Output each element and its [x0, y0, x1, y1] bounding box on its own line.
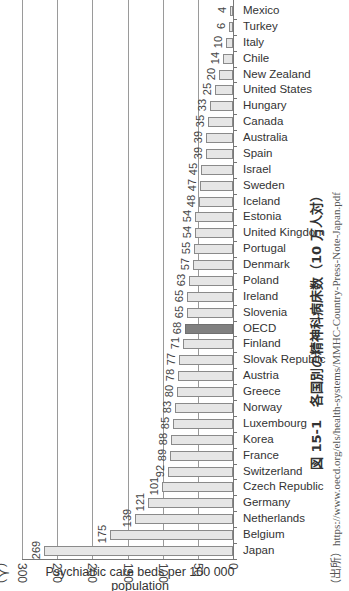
y-tick — [233, 336, 237, 337]
bar-slovenia — [187, 308, 233, 318]
y-tick — [233, 479, 237, 480]
y-tick — [233, 114, 237, 115]
y-tick — [233, 82, 237, 83]
y-tick — [233, 162, 237, 163]
bar-hungary — [210, 101, 233, 111]
bar-denmark — [193, 260, 233, 270]
bar-chile — [223, 54, 233, 64]
y-tick — [233, 98, 237, 99]
category-label: Slovenia — [243, 306, 287, 318]
category-label: Italy — [243, 36, 264, 48]
y-tick — [233, 19, 237, 20]
bar-netherlands — [135, 514, 233, 524]
bar-japan — [44, 546, 233, 556]
category-label: Canada — [243, 115, 283, 127]
x-axis-title-line2: population — [20, 579, 260, 591]
bar-mexico — [230, 6, 233, 16]
category-label: Portugal — [243, 242, 286, 254]
category-label: Greece — [243, 385, 281, 397]
value-label: 139 — [121, 506, 133, 530]
bar-israel — [201, 165, 233, 175]
category-label: Turkey — [243, 20, 278, 32]
category-label: Denmark — [243, 258, 290, 270]
category-label: Ireland — [243, 290, 278, 302]
bar-new-zealand — [219, 70, 233, 80]
category-label: Austria — [243, 369, 279, 381]
y-tick — [233, 209, 237, 210]
bar-austria — [178, 371, 233, 381]
y-tick — [233, 559, 237, 560]
y-tick — [233, 289, 237, 290]
value-label: 121 — [134, 490, 146, 514]
bar-poland — [189, 276, 233, 286]
y-tick — [233, 448, 237, 449]
y-tick — [233, 51, 237, 52]
y-tick — [233, 321, 237, 322]
category-label: Czech Republic — [243, 480, 324, 492]
gridline — [22, 0, 23, 559]
y-tick — [233, 225, 237, 226]
y-tick — [233, 464, 237, 465]
category-label: Luxembourg — [243, 417, 307, 429]
y-tick — [233, 543, 237, 544]
bar-greece — [177, 387, 233, 397]
category-label: Finland — [243, 337, 281, 349]
gridline — [92, 0, 93, 559]
bar-norway — [175, 403, 233, 413]
y-tick — [233, 368, 237, 369]
category-label: Hungary — [243, 99, 286, 111]
bar-ireland — [187, 292, 233, 302]
y-tick — [233, 400, 237, 401]
bar-oecd — [185, 324, 233, 334]
y-tick — [233, 511, 237, 512]
y-tick — [233, 352, 237, 353]
category-label: Belgium — [243, 528, 285, 540]
category-label: Estonia — [243, 210, 281, 222]
bar-portugal — [194, 244, 233, 254]
category-label: United States — [243, 83, 312, 95]
y-tick — [233, 241, 237, 242]
x-axis-title: Psychiatric care beds per 100 000 popula… — [20, 565, 260, 591]
gridline — [128, 0, 129, 559]
gridline — [233, 0, 234, 559]
y-tick — [233, 35, 237, 36]
y-tick — [233, 416, 237, 417]
category-label: Poland — [243, 274, 279, 286]
value-label: 269 — [30, 538, 42, 562]
bar-united-states — [215, 85, 233, 95]
y-tick — [233, 273, 237, 274]
bar-france — [170, 451, 233, 461]
category-label: Sweden — [243, 179, 285, 191]
category-label: Norway — [243, 401, 282, 413]
category-label: OECD — [243, 322, 276, 334]
bar-czech-republic — [162, 482, 233, 492]
bar-belgium — [110, 530, 233, 540]
y-tick — [233, 194, 237, 195]
unit-label: (人) — [0, 563, 12, 583]
value-label: 101 — [148, 474, 160, 498]
bar-turkey — [229, 22, 233, 32]
bar-finland — [183, 339, 233, 349]
y-tick — [233, 305, 237, 306]
bar-spain — [206, 149, 233, 159]
category-label: Israel — [243, 163, 271, 175]
category-label: Australia — [243, 131, 288, 143]
bar-korea — [171, 435, 233, 445]
x-axis-line — [22, 559, 233, 560]
category-label: Iceland — [243, 195, 280, 207]
y-tick — [233, 130, 237, 131]
category-label: New Zealand — [243, 68, 311, 80]
y-tick — [233, 257, 237, 258]
bar-slovak-republic — [179, 355, 233, 365]
chart-caption: 図 15-1 各国別の精神科病床数（10 万人対） — [306, 189, 325, 470]
category-label: Mexico — [243, 4, 279, 16]
y-tick — [233, 432, 237, 433]
y-tick — [233, 495, 237, 496]
bar-sweden — [200, 181, 233, 191]
bar-germany — [148, 498, 233, 508]
bar-australia — [206, 133, 233, 143]
category-label: Japan — [243, 544, 274, 556]
bar-italy — [226, 38, 233, 48]
source-note: （出所）https://www.oecd.org/els/health-syst… — [327, 192, 343, 590]
bar-iceland — [199, 197, 233, 207]
